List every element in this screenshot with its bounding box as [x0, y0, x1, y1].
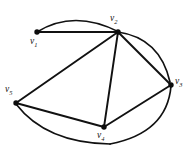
vertex-label-v1-subscript: 1 [34, 41, 37, 48]
vertex-label-v2-subscript: 2 [114, 18, 117, 25]
graph-canvas [0, 0, 191, 153]
vertex-label-v5: v5 [5, 85, 12, 96]
vertex-label-v3: v3 [175, 77, 182, 88]
vertex-dot-v1 [34, 29, 39, 34]
curved-edge-group [16, 21, 171, 145]
edge-v2-v4 [104, 32, 118, 127]
vertex-dot-v4 [101, 124, 106, 129]
vertex-dot-v5 [13, 100, 18, 105]
arc-edge-v1-v2 [37, 21, 119, 33]
edge-v4-v3 [104, 85, 171, 127]
edge-v5-v4 [16, 103, 104, 127]
vertex-label-v4: v4 [97, 131, 104, 142]
vertex-label-v4-subscript: 4 [101, 135, 104, 142]
vertex-label-v2: v2 [110, 14, 117, 25]
vertex-label-v3-subscript: 3 [179, 81, 182, 88]
vertex-dot-v2 [115, 29, 120, 34]
straight-edge-group [16, 32, 171, 127]
edge-v2-v3 [118, 32, 171, 85]
vertex-dot-v3 [168, 82, 173, 87]
vertex-label-v5-subscript: 5 [9, 89, 12, 96]
graph-figure: v1 v2 v3 v4 v5 [0, 0, 191, 153]
vertex-label-v1: v1 [30, 37, 37, 48]
arc-edge-v3-v4 [110, 86, 171, 144]
